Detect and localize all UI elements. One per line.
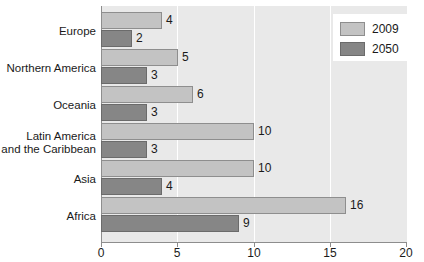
bar-value-northern-america-2050: 3 <box>151 67 158 84</box>
bar-northern-america-2050 <box>101 67 147 84</box>
bar-value-asia-2050: 4 <box>166 178 173 195</box>
bar-oceania-2009 <box>101 86 193 103</box>
bar-value-oceania-2009: 6 <box>197 86 204 103</box>
bar-value-africa-2009: 16 <box>350 197 363 214</box>
category-label-africa: Africa <box>0 210 96 223</box>
x-tick-label-5: 5 <box>157 246 197 260</box>
bar-latin-america-2009 <box>101 123 254 140</box>
bar-value-europe-2050: 2 <box>136 30 143 47</box>
legend-swatch-2009-icon <box>340 22 365 36</box>
legend-label-2050: 2050 <box>372 42 399 56</box>
bar-value-africa-2050: 9 <box>243 215 250 232</box>
bar-value-asia-2009: 10 <box>258 160 271 177</box>
x-tick-label-15: 15 <box>310 246 350 260</box>
bar-oceania-2050 <box>101 104 147 121</box>
bar-asia-2009 <box>101 160 254 177</box>
category-label-europe: Europe <box>0 25 96 38</box>
bar-latin-america-2050 <box>101 141 147 158</box>
bar-value-europe-2009: 4 <box>166 12 173 29</box>
legend-label-2009: 2009 <box>372 22 399 36</box>
bar-africa-2009 <box>101 197 346 214</box>
category-label-northern-america: Northern America <box>0 62 96 75</box>
chart-legend: 2009 2050 <box>333 14 412 61</box>
x-tick-label-20: 20 <box>386 246 424 260</box>
category-label-asia: Asia <box>0 173 96 186</box>
legend-swatch-2050-icon <box>340 42 365 56</box>
x-tick-label-0: 0 <box>81 246 121 260</box>
bar-europe-2009 <box>101 12 162 29</box>
bar-value-latin-america-2009: 10 <box>258 123 271 140</box>
bar-northern-america-2009 <box>101 49 178 66</box>
bar-value-oceania-2050: 3 <box>151 104 158 121</box>
x-tick-label-10: 10 <box>234 246 274 260</box>
legend-entry-2009: 2009 <box>340 20 406 37</box>
bar-chart: Europe 4 2 Northern America 5 3 Oceania … <box>0 0 424 262</box>
bar-value-latin-america-2050: 3 <box>151 141 158 158</box>
category-label-latin-america: Latin America and the Caribbean <box>0 130 96 156</box>
category-label-oceania: Oceania <box>0 99 96 112</box>
legend-entry-2050: 2050 <box>340 40 406 57</box>
bar-europe-2050 <box>101 30 132 47</box>
bar-africa-2050 <box>101 215 239 232</box>
bar-value-northern-america-2009: 5 <box>182 49 189 66</box>
bar-asia-2050 <box>101 178 162 195</box>
